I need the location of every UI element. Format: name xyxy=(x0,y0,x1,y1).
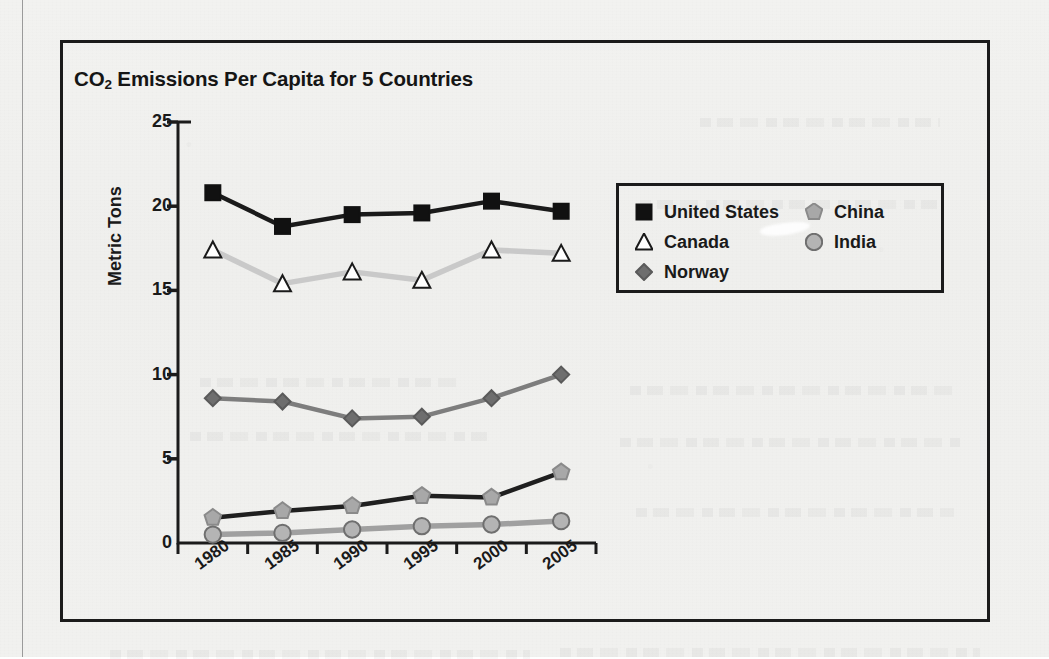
series-line xyxy=(213,250,561,284)
data-point-marker xyxy=(344,521,360,537)
chart-title: CO2 Emissions Per Capita for 5 Countries xyxy=(74,67,473,92)
page-rule-outer xyxy=(22,0,23,657)
data-point-marker xyxy=(637,205,652,220)
data-point-marker xyxy=(806,203,823,219)
data-point-marker xyxy=(274,502,291,518)
data-point-marker xyxy=(414,409,430,425)
legend-item-canada: Canada xyxy=(635,227,779,257)
legend-item-label: China xyxy=(834,202,884,223)
y-tick-label: 10 xyxy=(132,364,172,385)
chart-title-subscript: 2 xyxy=(104,77,111,92)
y-tick-label: 20 xyxy=(132,195,172,216)
data-point-marker xyxy=(345,207,360,222)
chart-svg xyxy=(178,122,608,552)
series-line xyxy=(213,193,561,227)
data-point-marker xyxy=(344,497,361,513)
x-axis-tick-labels: 198019851990199520002005 xyxy=(178,552,608,612)
data-point-marker xyxy=(483,516,499,532)
diamond-marker-icon xyxy=(635,263,653,281)
square-marker-icon xyxy=(635,203,653,221)
data-point-marker xyxy=(553,367,569,383)
legend-item-norway: Norway xyxy=(635,257,779,287)
data-point-marker xyxy=(483,489,500,505)
data-point-marker xyxy=(205,509,222,525)
y-axis-tick-labels: 0510152025 xyxy=(128,122,172,543)
ghost-text-line xyxy=(560,648,980,657)
legend-item-united-states: United States xyxy=(635,197,779,227)
data-point-marker xyxy=(806,234,822,250)
chart-legend: United StatesCanadaNorway ChinaIndia xyxy=(616,183,944,293)
triangle-marker-icon xyxy=(635,233,653,251)
data-point-marker xyxy=(205,526,221,542)
legend-item-label: India xyxy=(834,232,876,253)
data-point-marker xyxy=(553,464,570,480)
data-point-marker xyxy=(344,410,360,426)
data-point-marker xyxy=(554,204,569,219)
legend-column-right: ChinaIndia xyxy=(805,197,884,257)
data-point-marker xyxy=(636,234,653,250)
data-point-marker xyxy=(275,394,291,410)
axes xyxy=(167,122,596,554)
chart-title-main: CO xyxy=(74,67,104,90)
series-line xyxy=(213,375,561,419)
y-tick-label: 5 xyxy=(132,448,172,469)
y-axis-title: Metric Tons xyxy=(105,126,126,286)
series-china xyxy=(205,464,570,525)
data-point-marker xyxy=(274,525,290,541)
ghost-text-line xyxy=(110,650,530,659)
data-point-marker xyxy=(553,513,569,529)
series-norway xyxy=(205,367,569,427)
pentagon-marker-icon xyxy=(805,203,823,221)
legend-item-india: India xyxy=(805,227,884,257)
series-united-states xyxy=(205,185,568,234)
circle-marker-icon xyxy=(805,233,823,251)
plot-area xyxy=(178,122,596,543)
data-point-marker xyxy=(205,185,220,200)
data-point-marker xyxy=(275,219,290,234)
chart-title-rest: Emissions Per Capita for 5 Countries xyxy=(112,67,473,90)
data-point-marker xyxy=(484,390,500,406)
data-point-marker xyxy=(205,390,221,406)
legend-column-left: United StatesCanadaNorway xyxy=(635,197,779,287)
legend-item-label: United States xyxy=(664,202,779,223)
data-point-marker xyxy=(484,194,499,209)
data-point-marker xyxy=(636,264,652,280)
y-tick-label: 0 xyxy=(132,532,172,553)
data-point-marker xyxy=(414,205,429,220)
series-india xyxy=(205,513,570,543)
legend-item-label: Canada xyxy=(664,232,729,253)
y-tick-label: 25 xyxy=(132,111,172,132)
legend-item-china: China xyxy=(805,197,884,227)
series-canada xyxy=(204,241,569,291)
data-point-marker xyxy=(414,487,431,503)
series-line xyxy=(213,521,561,534)
legend-item-label: Norway xyxy=(664,262,729,283)
data-point-marker xyxy=(204,241,221,257)
data-point-marker xyxy=(414,518,430,534)
y-tick-label: 15 xyxy=(132,279,172,300)
series-line xyxy=(213,472,561,517)
